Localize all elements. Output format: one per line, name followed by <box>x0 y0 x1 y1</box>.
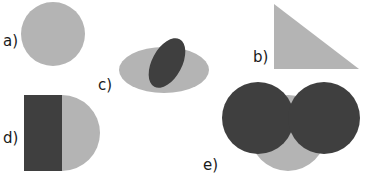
shape-label-c: c) <box>98 76 112 94</box>
shape-e-circle-3 <box>288 82 360 154</box>
shape-e-circle-2 <box>222 82 294 154</box>
shape-a-circle-1 <box>21 2 85 66</box>
shape-group-d: d) <box>3 95 100 171</box>
geometric-shapes-figure: a)b)c)d)e) <box>0 0 367 177</box>
shape-d-rect-2 <box>24 95 62 171</box>
shape-label-a: a) <box>3 32 18 50</box>
shape-label-e: e) <box>203 156 218 174</box>
shape-label-b: b) <box>253 48 268 66</box>
shape-b-triangle-1 <box>274 4 359 69</box>
shapes-svg-canvas: a)b)c)d)e) <box>0 0 367 177</box>
shape-group-e: e) <box>203 82 360 174</box>
shape-group-b: b) <box>253 4 359 69</box>
shape-group-c: c) <box>98 32 209 94</box>
shape-group-a: a) <box>3 2 85 66</box>
shape-label-d: d) <box>3 129 18 147</box>
